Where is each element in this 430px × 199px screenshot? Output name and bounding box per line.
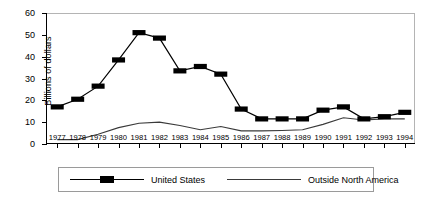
data-point-marker (153, 36, 166, 41)
y-tick-label: 10 (25, 118, 35, 127)
series-line-united-states (57, 33, 405, 119)
x-tick-label: 1977 (49, 134, 66, 142)
x-tick (221, 144, 222, 148)
y-tick-label: 40 (25, 52, 35, 61)
y-tick-label: 20 (25, 96, 35, 105)
x-tick-label: 1989 (294, 134, 311, 142)
x-tick-label: 1987 (253, 134, 270, 142)
y-tick: 0 (42, 144, 47, 145)
x-tick-label: 1982 (151, 134, 168, 142)
legend-swatch-line-square-icon (70, 175, 144, 185)
x-tick-label: 1991 (335, 134, 352, 142)
data-point-marker (255, 116, 268, 121)
data-point-marker (398, 110, 411, 115)
data-point-marker (51, 104, 64, 109)
chart-legend: United States Outside North America (58, 167, 374, 192)
data-point-marker (337, 104, 350, 109)
x-tick-label: 1988 (274, 134, 291, 142)
x-tick-label: 1978 (69, 134, 86, 142)
x-tick (282, 144, 283, 148)
plot-area: 0102030405060 (47, 13, 415, 144)
x-tick-label: 1993 (376, 134, 393, 142)
data-point-marker (112, 57, 125, 62)
data-point-marker (276, 116, 289, 121)
x-tick (343, 144, 344, 148)
x-tick-label: 1979 (90, 134, 107, 142)
data-point-marker (92, 84, 105, 89)
x-tick-label: 1983 (171, 134, 188, 142)
data-point-marker (194, 64, 207, 69)
x-tick (303, 144, 304, 148)
x-tick (78, 144, 79, 148)
series-lines (47, 13, 415, 144)
x-tick (262, 144, 263, 148)
data-point-marker (173, 68, 186, 73)
chart-figure: Billions of dollars 0102030405060 197719… (0, 0, 430, 199)
legend-swatch-line-icon (227, 175, 301, 185)
x-tick (384, 144, 385, 148)
x-tick (241, 144, 242, 148)
x-tick (323, 144, 324, 148)
data-point-marker (378, 114, 391, 119)
data-point-marker (71, 97, 84, 102)
x-tick-label: 1984 (192, 134, 209, 142)
x-tick (139, 144, 140, 148)
x-tick (200, 144, 201, 148)
legend-label: Outside North America (308, 175, 399, 185)
x-tick-label: 1992 (355, 134, 372, 142)
legend-item-outside-north-america[interactable]: Outside North America (227, 168, 399, 191)
x-tick-label: 1985 (212, 134, 229, 142)
x-tick-label: 1981 (131, 134, 148, 142)
y-tick-label: 60 (25, 9, 35, 18)
x-tick (57, 144, 58, 148)
x-tick-label: 1986 (233, 134, 250, 142)
x-tick (180, 144, 181, 148)
data-point-marker (235, 106, 248, 111)
data-point-marker (317, 108, 330, 113)
y-tick-label: 0 (30, 140, 35, 149)
x-tick (119, 144, 120, 148)
y-tick-label: 30 (25, 74, 35, 83)
data-point-marker (214, 72, 227, 77)
legend-item-united-states[interactable]: United States (70, 168, 205, 191)
x-tick (159, 144, 160, 148)
data-point-marker (357, 116, 370, 121)
y-tick-label: 50 (25, 30, 35, 39)
x-tick (364, 144, 365, 148)
x-tick (98, 144, 99, 148)
data-point-marker (296, 116, 309, 121)
x-tick (405, 144, 406, 148)
data-point-marker (133, 30, 146, 35)
x-tick-label: 1994 (396, 134, 413, 142)
legend-label: United States (151, 175, 205, 185)
x-tick-label: 1980 (110, 134, 127, 142)
x-tick-label: 1990 (315, 134, 332, 142)
